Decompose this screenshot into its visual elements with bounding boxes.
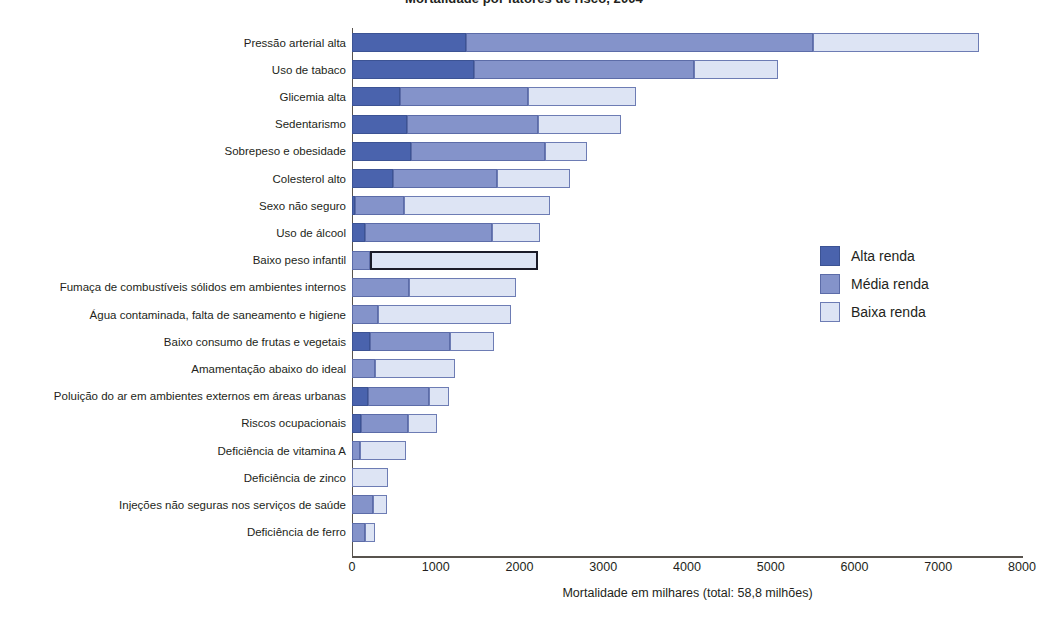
bar-segment-baixa[interactable] <box>450 332 494 351</box>
category-label: Pressão arterial alta <box>0 37 346 49</box>
bar-segment-alta[interactable] <box>352 87 400 106</box>
bar-segment-media[interactable] <box>365 223 491 242</box>
bar-segment-media[interactable] <box>474 60 693 79</box>
bar-row[interactable] <box>352 441 1022 460</box>
bar-segment-baixa[interactable] <box>404 196 550 215</box>
legend-swatch-media <box>820 274 840 294</box>
bar-segment-media[interactable] <box>352 441 360 460</box>
bar-segment-baixa[interactable] <box>694 60 779 79</box>
legend-item[interactable]: Média renda <box>820 270 1000 298</box>
bar-segment-alta[interactable] <box>352 223 365 242</box>
bar-segment-baixa[interactable] <box>538 115 621 134</box>
bar-row[interactable] <box>352 115 1022 134</box>
bar-segment-media[interactable] <box>352 251 370 270</box>
bar-segment-media[interactable] <box>355 196 404 215</box>
x-tick-label: 7000 <box>924 560 952 574</box>
bar-segment-baixa[interactable] <box>375 359 455 378</box>
bar-segment-media[interactable] <box>368 387 429 406</box>
category-label: Baixo consumo de frutas e vegetais <box>0 336 346 348</box>
bar-segment-media[interactable] <box>411 142 545 161</box>
bar-segment-media[interactable] <box>393 169 497 188</box>
legend-swatch-alta <box>820 246 840 266</box>
bar-segment-media[interactable] <box>352 359 375 378</box>
category-label: Baixo peso infantil <box>0 254 346 266</box>
category-label: Riscos ocupacionais <box>0 417 346 429</box>
bar-row[interactable] <box>352 33 1022 52</box>
bar-segment-media[interactable] <box>400 87 528 106</box>
x-axis-title: Mortalidade em milhares (total: 58,8 mil… <box>352 586 1023 600</box>
category-label: Colesterol alto <box>0 173 346 185</box>
bar-segment-media[interactable] <box>370 332 450 351</box>
category-axis-labels: Pressão arterial altaUso de tabacoGlicem… <box>0 28 346 556</box>
bar-row[interactable] <box>352 169 1022 188</box>
bar-segment-alta[interactable] <box>352 169 393 188</box>
bar-row[interactable] <box>352 523 1022 542</box>
category-label: Sobrepeso e obesidade <box>0 145 346 157</box>
legend-label: Média renda <box>851 276 929 292</box>
x-tick-label: 4000 <box>673 560 701 574</box>
x-tick-label: 1000 <box>422 560 450 574</box>
legend-item[interactable]: Baixa renda <box>820 298 1000 326</box>
x-tick-label: 5000 <box>757 560 785 574</box>
x-tick-label: 2000 <box>506 560 534 574</box>
bar-segment-media[interactable] <box>352 305 378 324</box>
bar-segment-alta[interactable] <box>352 332 370 351</box>
bar-segment-baixa[interactable] <box>545 142 587 161</box>
category-label: Sexo não seguro <box>0 200 346 212</box>
bar-row[interactable] <box>352 468 1022 487</box>
bar-segment-baixa[interactable] <box>528 87 636 106</box>
bar-segment-baixa[interactable] <box>813 33 980 52</box>
bar-segment-media[interactable] <box>352 278 409 297</box>
bar-segment-media[interactable] <box>352 495 373 514</box>
bar-row[interactable] <box>352 495 1022 514</box>
bar-row[interactable] <box>352 359 1022 378</box>
category-label: Deficiência de zinco <box>0 472 346 484</box>
bar-segment-baixa[interactable] <box>409 278 516 297</box>
category-label: Amamentação abaixo do ideal <box>0 363 346 375</box>
category-label: Uso de tabaco <box>0 64 346 76</box>
x-tick-label: 6000 <box>841 560 869 574</box>
bar-segment-alta[interactable] <box>352 60 474 79</box>
bar-segment-baixa[interactable] <box>492 223 541 242</box>
category-label: Uso de álcool <box>0 227 346 239</box>
chart-legend: Alta rendaMédia rendaBaixa renda <box>820 242 1000 326</box>
bar-segment-alta[interactable] <box>352 142 411 161</box>
x-tick-label: 0 <box>349 560 356 574</box>
bar-segment-baixa[interactable] <box>497 169 570 188</box>
bar-segment-alta[interactable] <box>352 387 368 406</box>
bar-row[interactable] <box>352 387 1022 406</box>
bar-segment-media[interactable] <box>407 115 538 134</box>
bar-segment-baixa[interactable] <box>360 441 405 460</box>
bar-segment-baixa[interactable] <box>378 305 511 324</box>
category-label: Deficiência de ferro <box>0 526 346 538</box>
bar-row[interactable] <box>352 60 1022 79</box>
bar-segment-baixa[interactable] <box>365 523 374 542</box>
category-label: Água contaminada, falta de saneamento e … <box>0 309 346 321</box>
x-tick-label: 3000 <box>589 560 617 574</box>
bar-row[interactable] <box>352 223 1022 242</box>
bar-row[interactable] <box>352 142 1022 161</box>
legend-label: Alta renda <box>851 248 915 264</box>
bar-segment-baixa[interactable] <box>370 251 538 270</box>
bar-row[interactable] <box>352 87 1022 106</box>
x-tick-label: 8000 <box>1008 560 1036 574</box>
category-label: Glicemia alta <box>0 91 346 103</box>
bar-segment-baixa[interactable] <box>352 468 388 487</box>
bar-segment-alta[interactable] <box>352 414 361 433</box>
bar-segment-media[interactable] <box>352 523 365 542</box>
legend-item[interactable]: Alta renda <box>820 242 1000 270</box>
bar-row[interactable] <box>352 414 1022 433</box>
category-label: Poluição do ar em ambientes externos em … <box>0 390 346 402</box>
legend-label: Baixa renda <box>851 304 926 320</box>
bar-row[interactable] <box>352 196 1022 215</box>
bar-segment-baixa[interactable] <box>429 387 449 406</box>
bar-segment-alta[interactable] <box>352 33 466 52</box>
bar-segment-alta[interactable] <box>352 115 407 134</box>
bar-segment-baixa[interactable] <box>373 495 387 514</box>
category-label: Deficiência de vitamina A <box>0 445 346 457</box>
bar-row[interactable] <box>352 332 1022 351</box>
bar-segment-media[interactable] <box>361 414 408 433</box>
bar-segment-media[interactable] <box>466 33 813 52</box>
category-label: Sedentarismo <box>0 118 346 130</box>
bar-segment-baixa[interactable] <box>408 414 436 433</box>
